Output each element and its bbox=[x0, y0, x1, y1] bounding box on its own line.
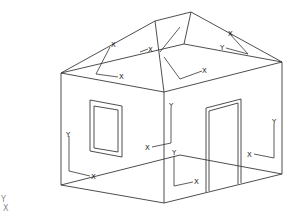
axis-label-y: Y bbox=[168, 102, 174, 110]
roof-back-hip bbox=[184, 12, 191, 44]
axis-label-y: Y bbox=[271, 118, 277, 126]
roof-right-axes: Y X bbox=[219, 30, 248, 54]
ucs-x-label: X bbox=[3, 204, 9, 213]
axis-label-x: X bbox=[145, 144, 150, 152]
roof-hip-left-back bbox=[61, 21, 155, 73]
ucs-icon: Y X bbox=[0, 195, 9, 213]
floor-right-back-edge bbox=[180, 155, 282, 174]
right-wall-bottom-edge bbox=[164, 174, 282, 203]
axis-label-y: Y bbox=[171, 149, 177, 157]
door-outer-frame bbox=[206, 99, 241, 192]
axis-label-y: Y bbox=[65, 131, 71, 139]
axis-label-x: X bbox=[228, 30, 233, 38]
axis-label-x: X bbox=[194, 178, 199, 186]
roof-hip-right-back bbox=[191, 12, 282, 62]
axis-label-x: X bbox=[119, 73, 124, 81]
door bbox=[206, 99, 241, 192]
wall-front-axes: Y X bbox=[171, 149, 199, 186]
axis-label-x: X bbox=[202, 67, 207, 75]
window bbox=[90, 100, 122, 157]
roof-front-hip bbox=[155, 21, 164, 92]
left-wall-bottom-edge bbox=[61, 185, 164, 203]
wall-left-axes: Y X bbox=[65, 131, 96, 181]
door-inner-frame bbox=[209, 103, 238, 191]
house-wireframe-diagram: X X X X Y X Y X bbox=[0, 0, 296, 220]
window-inner-frame bbox=[94, 106, 118, 152]
right-wall-top-edge bbox=[164, 62, 282, 92]
wall-right-axes: Y X bbox=[247, 118, 277, 159]
floor-back-edge bbox=[61, 155, 180, 185]
wall-left-inner-axes: Y X bbox=[145, 102, 174, 152]
axis-label-x: X bbox=[148, 46, 153, 54]
axis-label-y: Y bbox=[219, 44, 225, 52]
axis-label-x: X bbox=[247, 151, 252, 159]
axis-label-x: X bbox=[91, 173, 96, 181]
roof-hip-right-front bbox=[184, 44, 282, 62]
axis-label-x: X bbox=[111, 41, 116, 49]
roof-center-axes: X bbox=[160, 27, 207, 79]
roof-ridge bbox=[155, 12, 191, 21]
hip-roof bbox=[61, 12, 282, 92]
ucs-y-label: Y bbox=[0, 195, 6, 204]
